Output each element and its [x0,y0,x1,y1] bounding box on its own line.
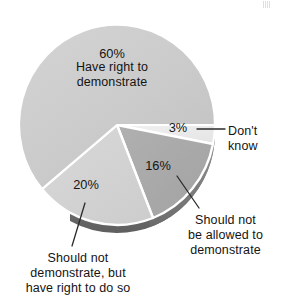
slice-label-should-not-allowed: Should not be allowed to demonstrate [168,213,283,257]
slice-label-dont-know: Don't know [228,124,282,154]
slice-percent-should-not-allowed: 16% [135,158,181,173]
slice-label-should-not-demonstrate: Should not demonstrate, but have right t… [2,251,154,295]
pie-chart-figure: 60% 20% 16% 3% Have right to demonstrate… [0,0,283,308]
slice-percent-have-right: 60% [52,46,172,61]
scan-artifact-mark [263,1,270,8]
slice-percent-dont-know: 3% [160,120,196,135]
slice-label-have-right: Have right to demonstrate [52,60,172,90]
slice-percent-should-not-demonstrate: 20% [60,177,112,192]
